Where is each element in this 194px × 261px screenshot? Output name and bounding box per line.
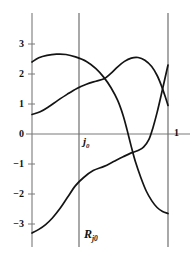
annotation-Rj0-base: R [84, 227, 92, 241]
y-tick-label-2: 2 [6, 69, 24, 79]
y-tick-label-0: 0 [6, 129, 24, 139]
curve-s-rising [32, 65, 168, 233]
y-tick-label-neg3: −3 [2, 219, 24, 229]
annotation-Rj0-sub: j0 [92, 234, 98, 243]
curves-group [32, 54, 168, 233]
annotation-j0: j0 [83, 136, 89, 147]
plot-canvas [0, 0, 194, 261]
annotation-Rj0: Rj0 [84, 228, 98, 240]
curve-rising-arch [32, 57, 168, 114]
annotation-j0-sub: 0 [86, 142, 89, 149]
plot-figure: 3 2 1 0 −1 −2 −3 j0 Rj0 1 [0, 0, 194, 261]
y-tick-label-1: 1 [6, 99, 24, 109]
y-tick-label-neg2: −2 [2, 189, 24, 199]
x-tick-label-one: 1 [174, 128, 179, 138]
y-tick-label-neg1: −1 [2, 159, 24, 169]
y-tick-label-3: 3 [6, 39, 24, 49]
